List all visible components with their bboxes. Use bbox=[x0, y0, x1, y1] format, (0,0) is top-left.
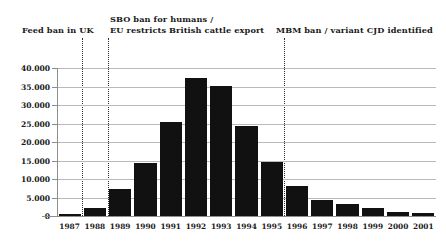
x-axis-baseline bbox=[42, 216, 436, 217]
bar bbox=[185, 78, 207, 216]
bar bbox=[336, 204, 358, 216]
annotation-mbm-ban: MBM ban / variant CJD identified bbox=[276, 25, 433, 36]
bar bbox=[235, 126, 257, 216]
x-tick-label: 1998 bbox=[337, 222, 358, 231]
bar bbox=[286, 186, 308, 216]
x-tick-label: 1992 bbox=[186, 222, 207, 231]
x-tick-label: 1991 bbox=[160, 222, 181, 231]
y-tick-label: 10.000 bbox=[21, 175, 50, 184]
x-tick-label: 1990 bbox=[135, 222, 156, 231]
y-tick-label: 20.000 bbox=[21, 138, 50, 147]
bar bbox=[160, 122, 182, 216]
x-tick-label: 1995 bbox=[261, 222, 282, 231]
y-tick-label: 5.000 bbox=[26, 193, 50, 202]
annotation-sbo-ban: SBO ban for humans / EU restricts Britis… bbox=[110, 14, 264, 35]
bar bbox=[311, 200, 333, 216]
x-tick-label: 1994 bbox=[236, 222, 257, 231]
y-tick-label: 25.000 bbox=[21, 119, 50, 128]
y-tick-label: 30.000 bbox=[21, 101, 50, 110]
bar bbox=[261, 162, 283, 216]
x-tick-label: 1988 bbox=[85, 222, 106, 231]
y-tick-label: 35.000 bbox=[21, 82, 50, 91]
x-tick-label: 2001 bbox=[413, 222, 434, 231]
bar bbox=[134, 163, 156, 216]
annotation-sbo-ban-line2: EU restricts British cattle export bbox=[110, 25, 264, 36]
bar-layer bbox=[57, 68, 436, 216]
annotation-layer: Feed ban in UK SBO ban for humans / EU r… bbox=[0, 0, 446, 46]
x-tick-label: 2000 bbox=[388, 222, 409, 231]
bar bbox=[362, 208, 384, 217]
x-tick-label: 1989 bbox=[110, 222, 131, 231]
annotation-sbo-ban-line1: SBO ban for humans / bbox=[110, 14, 264, 25]
bar bbox=[84, 208, 106, 216]
y-tick-label: 15.000 bbox=[21, 156, 50, 165]
x-axis-tick-layer: 1987198819891990199119921993199419951996… bbox=[57, 222, 436, 236]
y-tick-label: 40.000 bbox=[21, 64, 50, 73]
x-tick-label: 1996 bbox=[287, 222, 308, 231]
x-tick-label: 1993 bbox=[211, 222, 232, 231]
x-tick-label: 1999 bbox=[363, 222, 384, 231]
x-tick-label: 1987 bbox=[59, 222, 80, 231]
bar bbox=[109, 189, 131, 216]
bse-cases-bar-chart: Feed ban in UK SBO ban for humans / EU r… bbox=[0, 0, 446, 245]
annotation-feed-ban: Feed ban in UK bbox=[22, 25, 94, 36]
bar bbox=[210, 86, 232, 216]
x-tick-label: 1997 bbox=[312, 222, 333, 231]
